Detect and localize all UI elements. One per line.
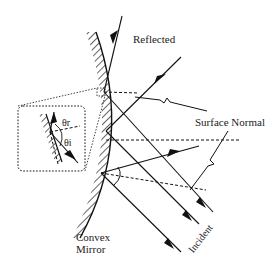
label-mirror: Mirror (76, 243, 105, 255)
label-theta-i: θi (64, 137, 72, 149)
label-convex: Convex (76, 231, 110, 243)
surface-normals (101, 92, 240, 190)
label-theta-r: θr (62, 117, 70, 129)
surface-normal-leaders (135, 97, 228, 190)
inset-box (18, 88, 105, 171)
label-surface-normal: Surface Normal (195, 116, 265, 128)
label-reflected: Reflected (133, 33, 175, 45)
